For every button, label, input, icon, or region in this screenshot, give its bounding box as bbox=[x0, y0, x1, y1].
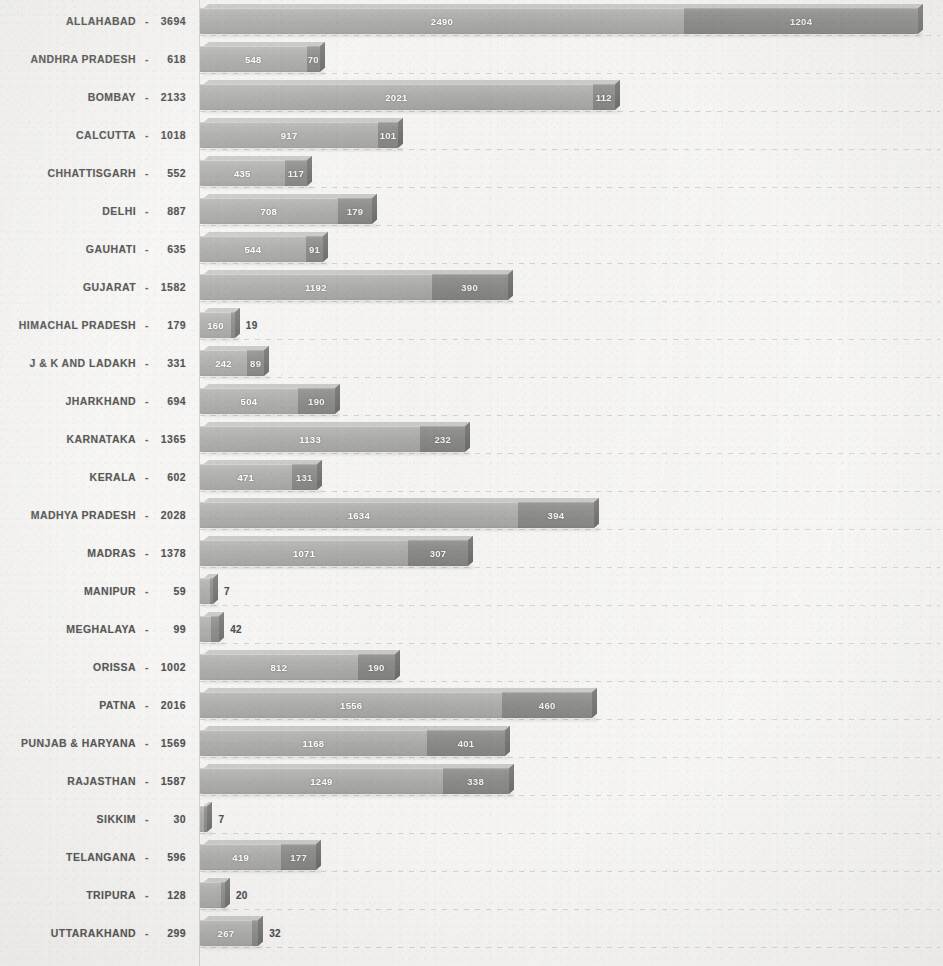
stacked-bar[interactable]: 1168401 bbox=[200, 730, 505, 756]
stacked-bar[interactable]: 708179 bbox=[200, 198, 372, 224]
bar-segment-1[interactable]: 2021 bbox=[200, 84, 593, 110]
bar-segment-2[interactable]: 89 bbox=[247, 350, 264, 376]
bar-segment-2[interactable]: 390 bbox=[432, 274, 508, 300]
bar-segment-1[interactable]: 435 bbox=[200, 160, 285, 186]
bar-container[interactable]: 471131 bbox=[200, 464, 317, 490]
bar-container[interactable]: 1133232 bbox=[200, 426, 465, 452]
bar-segment-2[interactable]: 307 bbox=[408, 540, 468, 566]
bar-segment-1[interactable]: 108 bbox=[200, 882, 221, 908]
bar-container[interactable]: 24901204 bbox=[200, 8, 918, 34]
bar-segment-1[interactable]: 708 bbox=[200, 198, 338, 224]
bar-segment-2[interactable]: 190 bbox=[298, 388, 335, 414]
stacked-bar[interactable]: 2021112 bbox=[200, 84, 615, 110]
segment-1-value: 1634 bbox=[348, 510, 370, 521]
bar-container[interactable]: 1634394 bbox=[200, 502, 594, 528]
bar-container[interactable]: 16019 bbox=[200, 312, 235, 338]
bar-segment-1[interactable]: 419 bbox=[200, 844, 281, 870]
bar-segment-2[interactable]: 190 bbox=[358, 654, 395, 680]
bar-container[interactable]: 54870 bbox=[200, 46, 320, 72]
stacked-bar[interactable]: 10820 bbox=[200, 882, 225, 908]
bar-segment-2[interactable]: 112 bbox=[593, 84, 615, 110]
bar-segment-1[interactable]: 52 bbox=[200, 578, 210, 604]
bar-container[interactable]: 504190 bbox=[200, 388, 335, 414]
stacked-bar[interactable]: 1249338 bbox=[200, 768, 509, 794]
bar-segment-1[interactable]: 160 bbox=[200, 312, 231, 338]
bar-segment-1[interactable]: 812 bbox=[200, 654, 358, 680]
stacked-bar[interactable]: 812190 bbox=[200, 654, 395, 680]
bar-segment-2[interactable]: 338 bbox=[443, 768, 509, 794]
bar-segment-2[interactable]: 101 bbox=[378, 122, 398, 148]
bar-container[interactable]: 54491 bbox=[200, 236, 323, 262]
stacked-bar[interactable]: 917101 bbox=[200, 122, 398, 148]
bar-segment-1[interactable]: 57 bbox=[200, 616, 211, 642]
bar-container[interactable]: 1071307 bbox=[200, 540, 468, 566]
stacked-bar[interactable]: 1133232 bbox=[200, 426, 465, 452]
bar-container[interactable]: 10820 bbox=[200, 882, 225, 908]
bar-container[interactable]: 2021112 bbox=[200, 84, 615, 110]
bar-container[interactable]: 527 bbox=[200, 578, 213, 604]
bar-container[interactable]: 419177 bbox=[200, 844, 316, 870]
stacked-bar[interactable]: 237 bbox=[200, 806, 207, 832]
bar-segment-2[interactable]: 177 bbox=[281, 844, 315, 870]
bar-segment-2[interactable]: 42 bbox=[211, 616, 219, 642]
bar-segment-1[interactable]: 1071 bbox=[200, 540, 408, 566]
stacked-bar[interactable]: 1634394 bbox=[200, 502, 594, 528]
bar-container[interactable]: 917101 bbox=[200, 122, 398, 148]
bar-segment-1[interactable]: 1249 bbox=[200, 768, 443, 794]
bar-segment-1[interactable]: 1168 bbox=[200, 730, 427, 756]
bar-segment-1[interactable]: 267 bbox=[200, 920, 252, 946]
bar-container[interactable]: 708179 bbox=[200, 198, 372, 224]
bar-container[interactable]: 1249338 bbox=[200, 768, 509, 794]
bar-segment-1[interactable]: 1556 bbox=[200, 692, 502, 718]
bar-container[interactable]: 5742 bbox=[200, 616, 219, 642]
bar-drop-shadow bbox=[203, 642, 224, 645]
bar-container[interactable]: 812190 bbox=[200, 654, 395, 680]
bar-container[interactable]: 435117 bbox=[200, 160, 307, 186]
stacked-bar[interactable]: 1556460 bbox=[200, 692, 592, 718]
bar-right-face bbox=[505, 726, 510, 756]
stacked-bar[interactable]: 26732 bbox=[200, 920, 258, 946]
bar-container[interactable]: 1192390 bbox=[200, 274, 508, 300]
bar-container[interactable]: 237 bbox=[200, 806, 207, 832]
stacked-bar[interactable]: 419177 bbox=[200, 844, 316, 870]
bar-segment-2[interactable]: 232 bbox=[420, 426, 465, 452]
bar-segment-2[interactable]: 179 bbox=[338, 198, 373, 224]
bar-segment-2[interactable]: 91 bbox=[306, 236, 324, 262]
stacked-bar[interactable]: 54870 bbox=[200, 46, 320, 72]
bar-segment-1[interactable]: 1634 bbox=[200, 502, 518, 528]
chart-row: DELHI-887708179 bbox=[0, 192, 943, 230]
bar-segment-2[interactable]: 1204 bbox=[684, 8, 918, 34]
stacked-bar[interactable]: 24901204 bbox=[200, 8, 918, 34]
bar-segment-1[interactable]: 471 bbox=[200, 464, 292, 490]
bar-segment-2[interactable]: 131 bbox=[292, 464, 317, 490]
bar-segment-1[interactable]: 544 bbox=[200, 236, 306, 262]
stacked-bar[interactable]: 527 bbox=[200, 578, 213, 604]
stacked-bar[interactable]: 471131 bbox=[200, 464, 317, 490]
bar-segment-1[interactable]: 548 bbox=[200, 46, 307, 72]
stacked-bar[interactable]: 504190 bbox=[200, 388, 335, 414]
bar-segment-2[interactable]: 460 bbox=[502, 692, 591, 718]
bar-segment-2[interactable]: 401 bbox=[427, 730, 505, 756]
bar-container[interactable]: 24289 bbox=[200, 350, 264, 376]
bar-segment-1[interactable]: 504 bbox=[200, 388, 298, 414]
bar-drop-shadow bbox=[203, 756, 510, 759]
stacked-bar[interactable]: 54491 bbox=[200, 236, 323, 262]
bar-container[interactable]: 26732 bbox=[200, 920, 258, 946]
category-total: 887 bbox=[156, 205, 186, 217]
bar-segment-1[interactable]: 1133 bbox=[200, 426, 420, 452]
bar-segment-2[interactable]: 394 bbox=[518, 502, 595, 528]
bar-segment-2[interactable]: 70 bbox=[307, 46, 321, 72]
bar-segment-2[interactable]: 117 bbox=[285, 160, 308, 186]
stacked-bar[interactable]: 5742 bbox=[200, 616, 219, 642]
stacked-bar[interactable]: 1192390 bbox=[200, 274, 508, 300]
stacked-bar[interactable]: 16019 bbox=[200, 312, 235, 338]
bar-container[interactable]: 1168401 bbox=[200, 730, 505, 756]
bar-segment-1[interactable]: 1192 bbox=[200, 274, 432, 300]
stacked-bar[interactable]: 24289 bbox=[200, 350, 264, 376]
bar-segment-1[interactable]: 917 bbox=[200, 122, 378, 148]
bar-segment-1[interactable]: 242 bbox=[200, 350, 247, 376]
bar-container[interactable]: 1556460 bbox=[200, 692, 592, 718]
stacked-bar[interactable]: 1071307 bbox=[200, 540, 468, 566]
stacked-bar[interactable]: 435117 bbox=[200, 160, 307, 186]
bar-segment-1[interactable]: 2490 bbox=[200, 8, 684, 34]
